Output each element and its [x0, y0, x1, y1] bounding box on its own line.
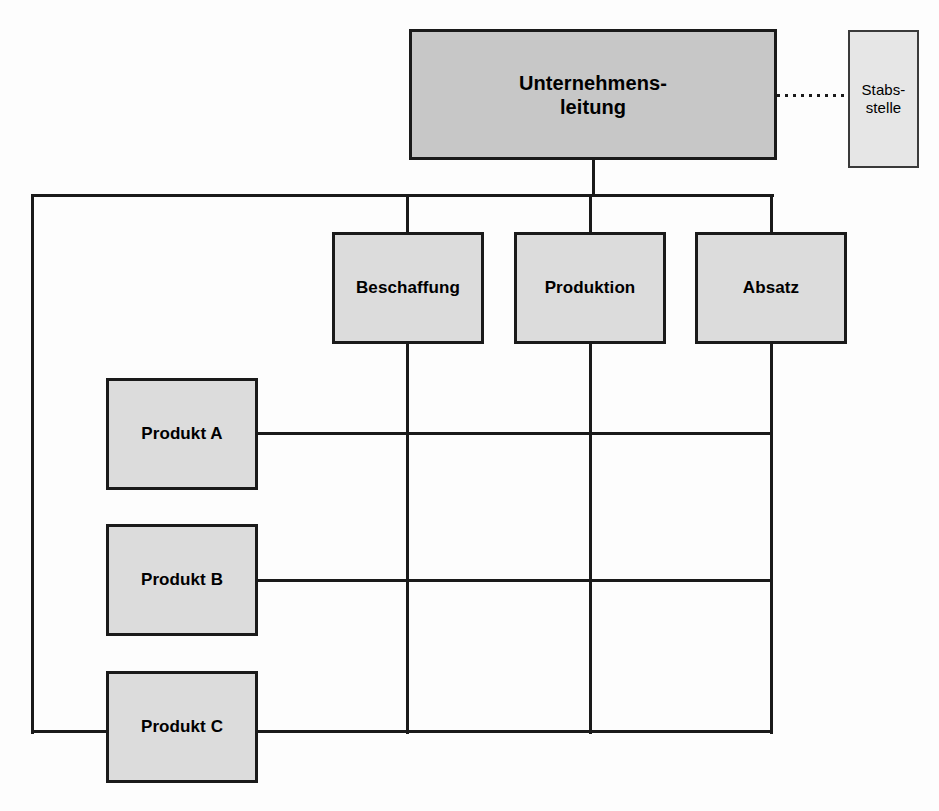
- connector-row-produkt-a: [258, 432, 773, 435]
- connector-column-produktion: [589, 344, 592, 734]
- connector-column-beschaffung: [406, 344, 409, 734]
- node-produkt-c[interactable]: Produkt C: [106, 671, 258, 783]
- node-produktion[interactable]: Produktion: [514, 232, 666, 344]
- node-label-produkt-c: Produkt C: [141, 717, 223, 737]
- node-label-produkt-a: Produkt A: [141, 424, 223, 444]
- connector-distribution-bar: [31, 194, 774, 197]
- node-label-unternehmensleitung: Unternehmens- leitung: [519, 71, 667, 119]
- node-beschaffung[interactable]: Beschaffung: [332, 232, 484, 344]
- node-label-absatz: Absatz: [743, 278, 799, 298]
- node-produkt-a[interactable]: Produkt A: [106, 378, 258, 490]
- connector-executive-drop: [592, 159, 595, 195]
- node-label-stabsstelle: Stabs- stelle: [862, 81, 906, 117]
- node-stabsstelle[interactable]: Stabs- stelle: [848, 30, 919, 168]
- node-absatz[interactable]: Absatz: [695, 232, 847, 344]
- node-produkt-b[interactable]: Produkt B: [106, 524, 258, 636]
- connector-stub-produktion: [589, 194, 592, 233]
- connector-column-absatz: [770, 344, 773, 734]
- node-label-produktion: Produktion: [545, 278, 636, 298]
- node-label-beschaffung: Beschaffung: [356, 278, 460, 298]
- connector-row-produkt-b: [258, 579, 773, 582]
- node-unternehmensleitung[interactable]: Unternehmens- leitung: [409, 29, 777, 160]
- org-chart-canvas: Unternehmens- leitung Stabs- stelle Besc…: [0, 0, 939, 811]
- connector-stub-absatz: [770, 194, 773, 233]
- connector-left-spine: [31, 194, 34, 734]
- connector-stub-beschaffung: [406, 194, 409, 233]
- node-label-produkt-b: Produkt B: [141, 570, 223, 590]
- connector-staff-dotted: [777, 94, 850, 97]
